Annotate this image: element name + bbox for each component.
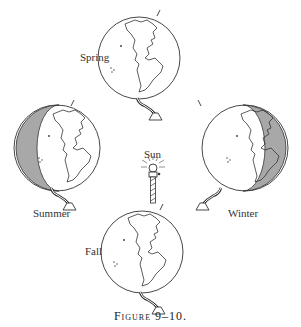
label-summer: Summer (33, 207, 70, 219)
label-fall: Fall (85, 245, 102, 257)
seasons-diagram: Spring Summer Winter Fall Sun Figure 9–1… (0, 0, 301, 327)
diagram-graphics (0, 0, 301, 327)
label-winter: Winter (228, 207, 258, 219)
globe-winter (196, 100, 288, 210)
label-spring: Spring (80, 51, 109, 63)
figure-caption: Figure 9–10. (0, 309, 301, 324)
label-sun: Sun (144, 148, 161, 160)
globe-fall (101, 204, 183, 314)
globe-spring (98, 10, 180, 120)
sun-lamp-icon (141, 156, 165, 203)
globe-summer (14, 100, 100, 210)
